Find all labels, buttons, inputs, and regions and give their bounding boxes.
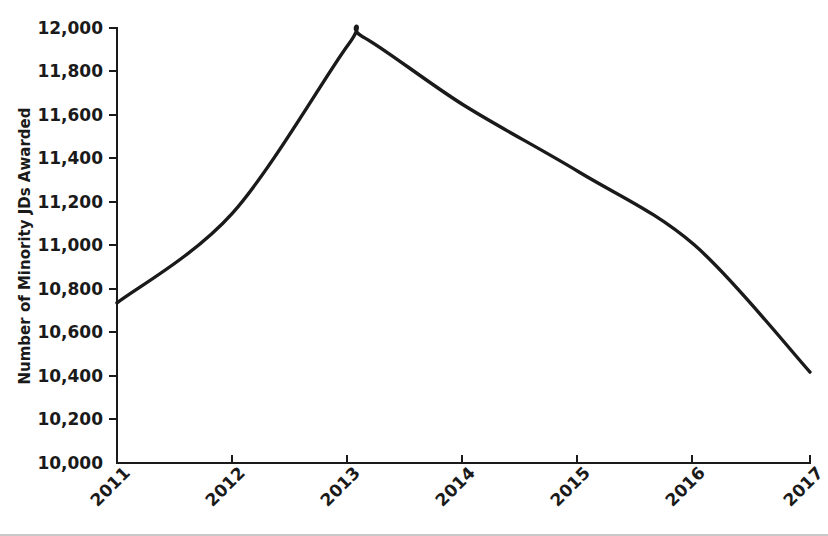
chart-container: Number of Minority JDs Awarded 12,000 11… (0, 0, 828, 536)
x-tick-label-2015: 2015 (546, 463, 594, 511)
y-axis-title-group: Number of Minority JDs Awarded (16, 107, 34, 384)
x-tick-label-2016: 2016 (661, 463, 709, 511)
y-axis-tick-marks (109, 28, 117, 419)
line-chart-svg: Number of Minority JDs Awarded 12,000 11… (0, 0, 828, 536)
x-axis-tick-labels: 2011 2012 2013 2014 2015 2016 2017 (86, 463, 827, 511)
y-tick-label-11600: 11,600 (37, 105, 103, 125)
y-tick-label-10200: 10,200 (37, 409, 103, 429)
y-tick-label-11800: 11,800 (37, 61, 103, 81)
y-tick-label-11000: 11,000 (37, 235, 103, 255)
data-series-line (117, 26, 810, 372)
y-tick-label-11400: 11,400 (37, 148, 103, 168)
y-tick-label-12000: 12,000 (37, 18, 103, 38)
axis-spines (117, 28, 810, 463)
x-tick-label-2014: 2014 (431, 463, 479, 511)
x-tick-label-2017: 2017 (779, 463, 827, 511)
y-tick-label-10600: 10,600 (37, 322, 103, 342)
y-tick-label-10400: 10,400 (37, 366, 103, 386)
y-tick-label-11200: 11,200 (37, 192, 103, 212)
y-axis-tick-labels: 12,000 11,800 11,600 11,400 11,200 11,00… (37, 18, 103, 473)
x-axis-tick-marks (232, 455, 810, 463)
x-tick-label-2013: 2013 (316, 463, 364, 511)
y-tick-label-10800: 10,800 (37, 279, 103, 299)
y-tick-label-10000: 10,000 (37, 453, 103, 473)
x-tick-label-2012: 2012 (201, 463, 249, 511)
y-axis-title: Number of Minority JDs Awarded (16, 107, 34, 384)
